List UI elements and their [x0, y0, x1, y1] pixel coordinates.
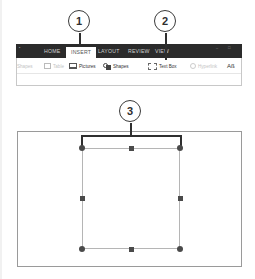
- ribbon-divider: [17, 73, 241, 74]
- minimize-icon[interactable]: –: [216, 45, 218, 50]
- callout-2: 2: [154, 10, 176, 32]
- tool-table[interactable]: Table: [44, 62, 64, 70]
- shapes-icon: [103, 63, 111, 70]
- tool-shapes[interactable]: Shapes: [103, 62, 129, 70]
- tool-label: Text Box: [159, 64, 177, 69]
- tab-home[interactable]: HOME: [44, 48, 60, 54]
- table-icon: [44, 63, 51, 69]
- tool-label: Shapes: [17, 64, 33, 69]
- tool-pictures[interactable]: Pictures: [69, 62, 96, 70]
- resize-handle-left[interactable]: [80, 196, 85, 201]
- width-bracket: [82, 135, 181, 137]
- tool-label: Pictures: [79, 64, 96, 69]
- tool-label: Table: [53, 64, 64, 69]
- tab-view[interactable]: VIEW: [155, 48, 169, 54]
- ribbon-tab-bar: ▪ HOME INSERT LAYOUT REVIEW VIEW – □: [16, 44, 242, 58]
- tab-review[interactable]: REVIEW: [128, 48, 150, 54]
- ribbon-toolbar: Shapes Table Pictures Shapes Text Box Hy…: [17, 58, 241, 73]
- resize-handle-right[interactable]: [178, 196, 183, 201]
- callout-1-leader: [79, 33, 81, 47]
- resize-handle-top[interactable]: [129, 146, 134, 151]
- callout-3: 3: [119, 100, 141, 122]
- pictures-icon: [69, 63, 77, 69]
- quick-access-icon[interactable]: ▪: [19, 45, 20, 50]
- tab-insert[interactable]: INSERT: [66, 47, 96, 58]
- page-edge: [0, 0, 2, 279]
- callout-2-leader: [165, 33, 167, 60]
- resize-handle-bottom[interactable]: [129, 247, 134, 252]
- tool-wordart[interactable]: Aß: [227, 62, 235, 70]
- callout-1: 1: [68, 10, 90, 32]
- wordart-icon: Aß: [227, 63, 235, 69]
- restore-icon[interactable]: □: [228, 45, 230, 50]
- resize-handle-bottom-right[interactable]: [177, 246, 183, 252]
- tool-label: Shapes: [113, 64, 129, 69]
- hyperlink-icon: [190, 63, 196, 69]
- text-box-selection[interactable]: [82, 148, 180, 249]
- tool-text-box[interactable]: Text Box: [148, 62, 177, 70]
- tool-shapes-partial[interactable]: Shapes: [17, 62, 33, 70]
- resize-handle-top-left[interactable]: [79, 145, 85, 151]
- textbox-icon: [148, 63, 157, 70]
- tool-label: Hyperlink: [198, 64, 217, 69]
- resize-handle-top-right[interactable]: [177, 145, 183, 151]
- tool-hyperlink[interactable]: Hyperlink: [190, 62, 217, 70]
- resize-handle-bottom-left[interactable]: [79, 246, 85, 252]
- tab-layout[interactable]: LAYOUT: [98, 48, 120, 54]
